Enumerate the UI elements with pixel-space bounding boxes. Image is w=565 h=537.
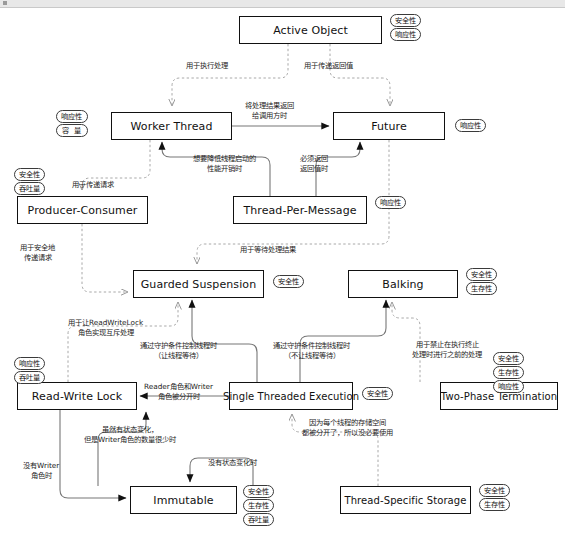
edge-label-guard-nowait: 通过守护条件控制线程时 （不让线程等待） [273,341,350,360]
edge-label-state-change: 虽然有状态变化， 但是Writer角色的数量很少时 [84,425,176,444]
edge-label-reader-writer: Reader角色和Writer 角色被分开时 [144,382,213,401]
node-label: Producer-Consumer [28,204,138,217]
node-label: Thread-Per-Message [243,204,356,217]
node-label: Active Object [273,24,348,37]
tag-responsiveness: 响应性 [455,119,486,132]
tag-responsiveness: 响应性 [375,196,406,209]
tag-throughput: 吞吐量 [14,371,45,384]
tag-responsiveness: 响应性 [56,110,88,123]
node-worker-thread[interactable]: Worker Thread [111,112,232,140]
edge-label-reduce-cost: 想要降低线程启动的 性能开销时 [193,154,256,173]
tag-responsiveness: 响应性 [493,380,524,393]
tags-producer-consumer: 安全性 吞吐量 [14,168,45,195]
tags-active-object: 安全性 响应性 [390,14,421,41]
node-label: Worker Thread [130,120,212,133]
edge-label-pass-request: 用于传递请求 [72,180,114,190]
tag-responsiveness: 响应性 [390,28,421,41]
edge-label-per-thread: 因为每个线程的存储空间 都被分开了，所以没必要使用 [302,418,393,437]
diagram-canvas: Active Object 安全性 响应性 Worker Thread 响应性 … [0,0,565,537]
edge-label-prohibit: 用于禁止在执行终止 处理时进行之前的处理 [412,340,482,359]
tag-safety: 安全性 [390,14,421,27]
node-label: Thread-Specific Storage [344,495,466,506]
tags-thread-specific-storage: 安全性 生存性 [479,484,510,511]
node-label: Read-Write Lock [32,390,122,403]
node-immutable[interactable]: Immutable [130,486,237,514]
edge-label-must-return: 必须返回 返回值时 [300,154,328,173]
edge-label-result-back: 将处理结果返回 给调用方时 [245,101,294,120]
tag-liveness: 生存性 [479,498,510,511]
node-thread-per-message[interactable]: Thread-Per-Message [233,196,367,224]
edge-label-wait-result: 用于等待处理结果 [240,245,296,255]
tag-safety: 安全性 [479,484,510,497]
tags-balking: 安全性 生存性 [466,268,497,295]
node-label: Future [371,120,407,133]
tag-safety: 安全性 [14,168,45,181]
node-active-object[interactable]: Active Object [239,16,382,44]
edge-label-guard-wait: 通过守护条件控制线程时 （让线程等待） [140,341,217,360]
tag-capacity: 容 量 [56,124,88,137]
tags-read-write-lock: 响应性 吞吐量 [14,357,45,384]
node-future[interactable]: Future [333,112,445,140]
tag-throughput: 吞吐量 [14,182,45,195]
tags-guarded-suspension: 安全性 [273,275,304,288]
edge-label-rwlock-mutex: 用于让ReadWriteLock 角色实现互斥处理 [68,318,143,337]
node-producer-consumer[interactable]: Producer-Consumer [17,196,148,224]
tag-liveness: 生存性 [466,282,497,295]
node-label: Immutable [153,494,213,507]
tag-safety: 安全性 [273,275,304,288]
tag-safety: 安全性 [362,387,393,400]
tag-liveness: 生存性 [493,366,524,379]
tags-two-phase-termination: 安全性 生存性 响应性 [493,352,524,393]
node-balking[interactable]: Balking [348,270,458,298]
tag-liveness: 生存性 [243,499,274,512]
node-read-write-lock[interactable]: Read-Write Lock [17,382,137,410]
node-label: Single Threaded Execution [223,391,359,402]
tags-immutable: 安全性 生存性 吞吐量 [243,485,274,526]
tags-future: 响应性 [455,119,486,132]
edge-label-exec: 用于执行处理 [186,61,228,71]
tags-thread-per-message: 响应性 [375,196,406,209]
edge-label-safe-pass: 用于安全地 传递请求 [20,243,55,262]
node-label: Guarded Suspension [141,278,257,291]
tags-worker-thread: 响应性 容 量 [56,110,88,137]
tag-throughput: 吞吐量 [243,513,274,526]
edge-label-no-writer: 没有Writer 角色时 [23,461,59,480]
node-single-threaded-execution[interactable]: Single Threaded Execution [229,382,353,410]
node-label: Balking [382,278,423,291]
tags-single-threaded-execution: 安全性 [362,387,393,400]
tag-responsiveness: 响应性 [14,357,45,370]
edge-label-return-value: 用于传递返回值 [304,61,353,71]
tag-safety: 安全性 [466,268,497,281]
tag-safety: 安全性 [243,485,274,498]
edge-label-no-state: 没有状态变化时 [208,458,257,468]
node-thread-specific-storage[interactable]: Thread-Specific Storage [340,486,471,514]
node-guarded-suspension[interactable]: Guarded Suspension [133,270,264,298]
tag-safety: 安全性 [493,352,524,365]
